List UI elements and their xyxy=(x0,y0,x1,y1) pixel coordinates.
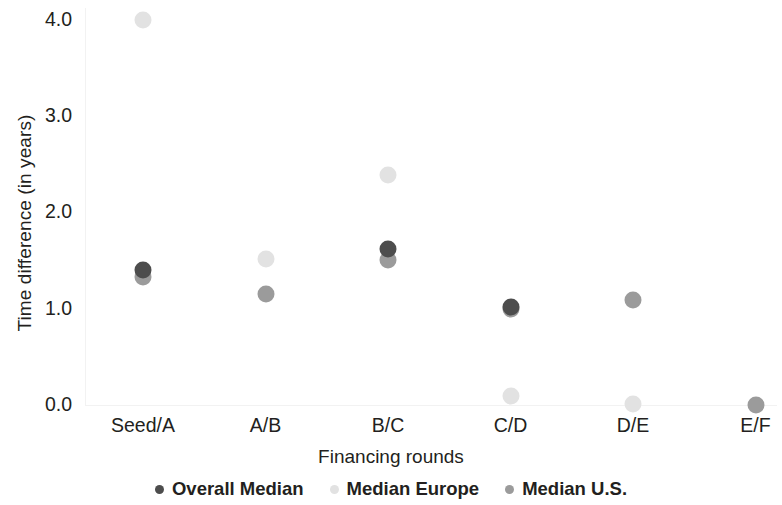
legend-marker-icon xyxy=(155,485,164,494)
x-axis-title: Financing rounds xyxy=(0,446,782,468)
data-point xyxy=(625,396,642,413)
legend-item-label: Overall Median xyxy=(172,478,304,500)
data-point xyxy=(257,250,274,267)
data-point xyxy=(135,262,152,279)
x-tick-label-d-e: D/E xyxy=(568,416,698,436)
legend-marker-icon xyxy=(505,485,514,494)
legend-item[interactable]: Overall Median xyxy=(155,478,304,500)
y-axis-ticks: 0.01.02.03.04.0 xyxy=(14,0,72,505)
legend-marker-icon xyxy=(330,485,339,494)
scatter-chart: Time difference (in years) 0.01.02.03.04… xyxy=(0,0,782,505)
x-tick-label-seed-a: Seed/A xyxy=(78,416,208,436)
data-point xyxy=(257,286,274,303)
legend-item-label: Median Europe xyxy=(347,478,480,500)
data-point xyxy=(502,388,519,405)
y-tick-label: 1.0 xyxy=(18,299,72,319)
data-point xyxy=(380,240,397,257)
y-tick-label: 2.0 xyxy=(18,202,72,222)
legend-item[interactable]: Median Europe xyxy=(330,478,480,500)
x-tick-label-c-d: C/D xyxy=(446,416,576,436)
y-tick-label: 4.0 xyxy=(18,10,72,30)
data-point xyxy=(747,397,764,414)
data-point xyxy=(135,11,152,28)
x-tick-label-b-c: B/C xyxy=(323,416,453,436)
x-tick-label-a-b: A/B xyxy=(201,416,331,436)
legend-item[interactable]: Median U.S. xyxy=(505,478,627,500)
data-point xyxy=(380,166,397,183)
plot-area xyxy=(86,8,776,406)
data-point xyxy=(625,292,642,309)
y-tick-label: 0.0 xyxy=(18,395,72,415)
data-point xyxy=(502,298,519,315)
legend-item-label: Median U.S. xyxy=(522,478,627,500)
chart-legend: Overall MedianMedian EuropeMedian U.S. xyxy=(0,478,782,500)
x-tick-label-e-f: E/F xyxy=(691,416,782,436)
y-tick-label: 3.0 xyxy=(18,106,72,126)
